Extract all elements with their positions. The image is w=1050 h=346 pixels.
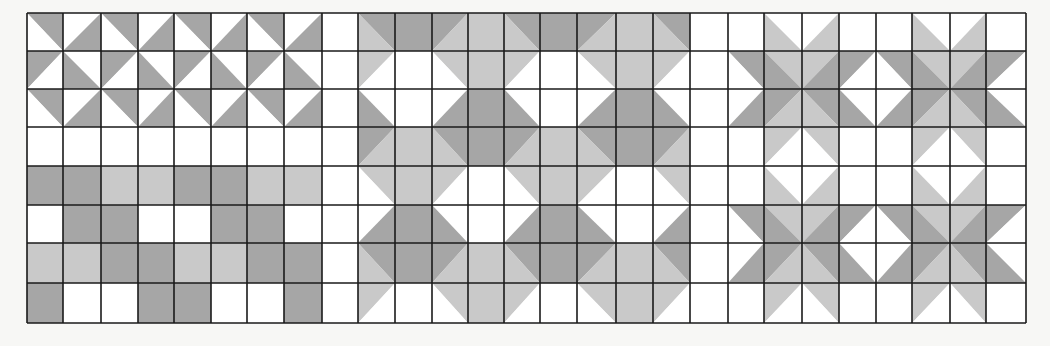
- quilt-cell: [690, 205, 728, 243]
- quilt-cell: [27, 205, 63, 243]
- quilt-cell: [616, 283, 653, 323]
- quilt-cell: [247, 283, 284, 323]
- quilt-cell: [101, 283, 138, 323]
- quilt-cell: [876, 243, 912, 283]
- quilt-cell: [322, 243, 358, 283]
- quilt-cell: [468, 89, 504, 127]
- quilt-cell: [468, 243, 504, 283]
- quilt-cell: [468, 166, 504, 205]
- quilt-cell: [876, 283, 912, 323]
- quilt-cell: [653, 243, 690, 283]
- quilt-cell: [839, 243, 876, 283]
- quilt-cell: [986, 89, 1026, 127]
- quilt-cell: [247, 13, 284, 51]
- quilt-cell: [950, 205, 986, 243]
- quilt-cell: [247, 166, 284, 205]
- quilt-cell: [504, 127, 540, 166]
- quilt-cell: [284, 166, 322, 205]
- quilt-cell: [653, 205, 690, 243]
- quilt-cell: [577, 205, 616, 243]
- quilt-cell: [27, 127, 63, 166]
- quilt-cell: [577, 166, 616, 205]
- quilt-cell: [358, 89, 395, 127]
- quilt-cell: [690, 51, 728, 89]
- quilt-cell: [764, 51, 802, 89]
- quilt-cell: [174, 205, 211, 243]
- quilt-cell: [876, 127, 912, 166]
- quilt-cell: [802, 51, 839, 89]
- quilt-cell: [728, 89, 764, 127]
- quilt-cell: [950, 166, 986, 205]
- quilt-cell: [540, 205, 577, 243]
- quilt-cell: [504, 51, 540, 89]
- quilt-cell: [764, 283, 802, 323]
- quilt-cell: [358, 51, 395, 89]
- quilt-cell: [101, 166, 138, 205]
- quilt-cell: [322, 283, 358, 323]
- quilt-cell: [912, 166, 950, 205]
- quilt-cell: [802, 205, 839, 243]
- quilt-cell: [395, 51, 432, 89]
- quilt-cell: [802, 89, 839, 127]
- quilt-cell: [653, 166, 690, 205]
- quilt-cell: [138, 127, 174, 166]
- quilt-cell: [839, 283, 876, 323]
- quilt-cell: [468, 51, 504, 89]
- quilt-cell: [101, 51, 138, 89]
- quilt-cell: [912, 283, 950, 323]
- quilt-cell: [284, 243, 322, 283]
- quilt-cell: [986, 205, 1026, 243]
- quilt-cell: [690, 283, 728, 323]
- quilt-cell: [616, 13, 653, 51]
- quilt-cell: [577, 51, 616, 89]
- quilt-cell: [616, 89, 653, 127]
- quilt-cell: [504, 205, 540, 243]
- quilt-cell: [616, 127, 653, 166]
- quilt-cell: [950, 51, 986, 89]
- quilt-cell: [540, 127, 577, 166]
- quilt-cell: [63, 89, 101, 127]
- quilt-cell: [138, 166, 174, 205]
- quilt-cell: [211, 205, 247, 243]
- quilt-cell: [690, 13, 728, 51]
- quilt-cell: [764, 13, 802, 51]
- quilt-cell: [986, 243, 1026, 283]
- quilt-cell: [986, 13, 1026, 51]
- quilt-cell: [138, 13, 174, 51]
- quilt-cell: [653, 89, 690, 127]
- quilt-cell: [540, 13, 577, 51]
- quilt-cell: [63, 166, 101, 205]
- quilt-cell: [174, 127, 211, 166]
- quilt-cell: [950, 243, 986, 283]
- quilt-cell: [27, 89, 63, 127]
- quilt-cell: [247, 127, 284, 166]
- quilt-cell: [653, 51, 690, 89]
- quilt-cell: [63, 205, 101, 243]
- quilt-cell: [839, 89, 876, 127]
- quilt-cell: [986, 166, 1026, 205]
- quilt-cell: [211, 89, 247, 127]
- quilt-cell: [616, 166, 653, 205]
- quilt-cell: [912, 243, 950, 283]
- quilt-cell: [432, 166, 468, 205]
- quilt-cell: [27, 13, 63, 51]
- quilt-cell: [138, 243, 174, 283]
- quilt-cell: [138, 89, 174, 127]
- quilt-cell: [211, 13, 247, 51]
- quilt-cell: [358, 283, 395, 323]
- quilt-cell: [690, 166, 728, 205]
- quilt-cell: [284, 89, 322, 127]
- quilt-cell: [247, 51, 284, 89]
- quilt-cell: [174, 166, 211, 205]
- quilt-cell: [247, 89, 284, 127]
- quilt-cell: [322, 89, 358, 127]
- quilt-cell: [504, 243, 540, 283]
- quilt-cell: [876, 205, 912, 243]
- quilt-cell: [138, 283, 174, 323]
- quilt-cell: [728, 51, 764, 89]
- quilt-cell: [690, 127, 728, 166]
- quilt-cell: [395, 283, 432, 323]
- quilt-cell: [728, 13, 764, 51]
- quilt-cell: [395, 127, 432, 166]
- quilt-cell: [728, 127, 764, 166]
